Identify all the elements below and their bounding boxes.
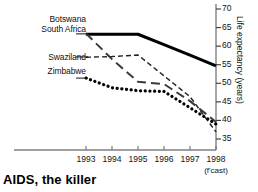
series-label-swaziland: Swaziland <box>14 52 86 62</box>
series-line-south-africa <box>86 34 216 122</box>
series-line-swaziland <box>86 55 216 132</box>
chart-figure: Botswana South Africa Swaziland Zimbabwe… <box>0 0 258 192</box>
chart-title: AIDS, the killer <box>3 172 96 187</box>
y-tick-label: 40 <box>222 115 231 124</box>
series-line-zimbabwe <box>86 78 216 124</box>
y-tick-label: 45 <box>222 97 231 106</box>
series-label-botswana: Botswana <box>14 14 86 24</box>
y-tick-label: 60 <box>222 41 231 50</box>
y-axis-title: Life expectancy (years) <box>233 16 245 142</box>
y-tick-label: 55 <box>222 60 231 69</box>
series-label-south-africa: South Africa <box>6 24 86 34</box>
y-tick-label: 35 <box>222 134 231 143</box>
series-label-zimbabwe: Zimbabwe <box>14 66 86 76</box>
y-tick-label: 50 <box>222 78 231 87</box>
forecast-note: (f'cast) <box>191 166 241 175</box>
x-tick-label: 1998 <box>201 155 231 164</box>
series-line-botswana <box>86 34 216 66</box>
y-tick-label: 65 <box>222 23 231 32</box>
y-tick-label: 70 <box>222 4 231 13</box>
